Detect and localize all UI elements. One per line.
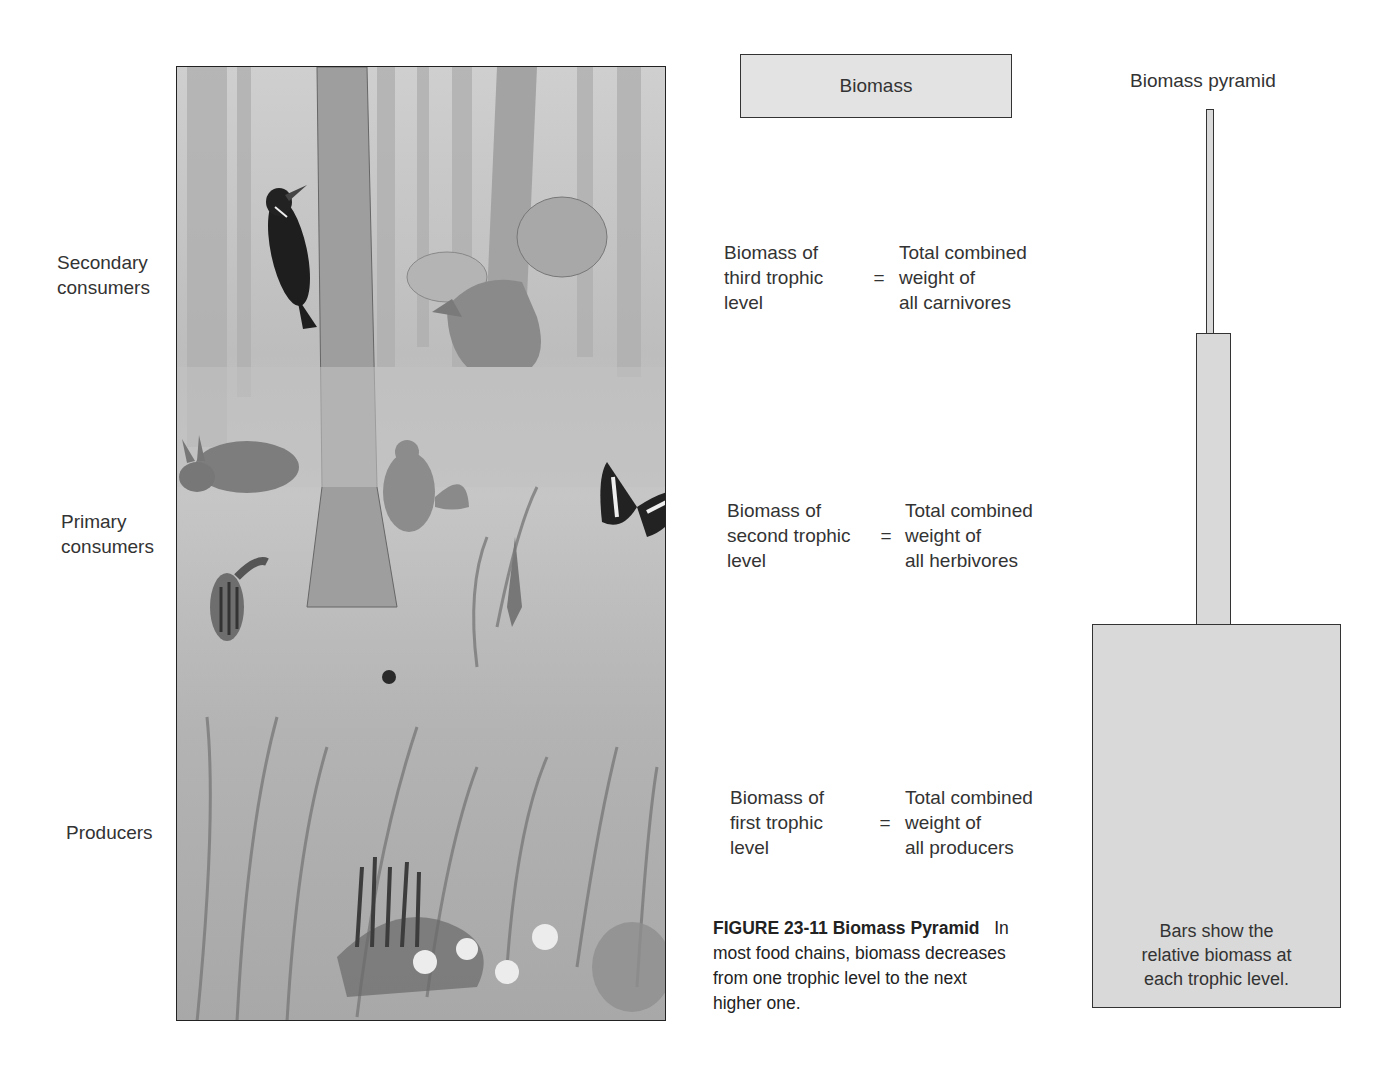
equation-rhs: Total combined weight of all carnivores xyxy=(899,240,1059,315)
equation-text: first trophic xyxy=(730,810,865,835)
pyramid-note: Bars show the relative biomass at each t… xyxy=(1093,919,1340,991)
bar-third-trophic-level xyxy=(1206,109,1214,334)
figure-number: FIGURE 23-11 xyxy=(713,918,828,938)
equation-text: Total combined xyxy=(905,498,1065,523)
bar-first-trophic-level: Bars show the relative biomass at each t… xyxy=(1092,624,1341,1008)
equals-sign: = xyxy=(859,265,899,290)
biomass-header-box: Biomass xyxy=(740,54,1012,118)
equation-text: all herbivores xyxy=(905,548,1065,573)
label-line: Secondary xyxy=(57,250,150,275)
label-primary-consumers: Primary consumers xyxy=(61,509,154,559)
equation-second-trophic-level: Biomass of second trophic level = Total … xyxy=(727,498,1065,573)
equation-text: Total combined xyxy=(899,240,1059,265)
caption-text: higher one. xyxy=(713,993,801,1013)
label-line: consumers xyxy=(57,275,150,300)
label-secondary-consumers: Secondary consumers xyxy=(57,250,150,300)
chipmunk-figure xyxy=(210,561,267,641)
equals-sign: = xyxy=(867,523,905,548)
note-line: each trophic level. xyxy=(1093,967,1340,991)
figure-title: Biomass Pyramid xyxy=(833,918,980,938)
equation-text: weight of xyxy=(899,265,1059,290)
equation-text: Biomass of xyxy=(724,240,859,265)
equation-text: Biomass of xyxy=(730,785,865,810)
pyramid-title: Biomass pyramid xyxy=(1130,70,1276,92)
equation-text: level xyxy=(730,835,865,860)
equation-text: all producers xyxy=(905,835,1065,860)
equation-text: all carnivores xyxy=(899,290,1059,315)
caption-text: from one trophic level to the next xyxy=(713,968,967,988)
equation-text: second trophic xyxy=(727,523,867,548)
woodpecker-figure xyxy=(260,185,318,329)
label-producers: Producers xyxy=(66,820,153,845)
equation-third-trophic-level: Biomass of third trophic level = Total c… xyxy=(724,240,1059,315)
equation-text: level xyxy=(727,548,867,573)
equation-text: weight of xyxy=(905,523,1065,548)
label-line: consumers xyxy=(61,534,154,559)
caption-text: most food chains, biomass decreases xyxy=(713,943,1006,963)
caption-text: In xyxy=(994,918,1009,938)
equation-text: Biomass of xyxy=(727,498,867,523)
figure-caption: FIGURE 23-11 Biomass Pyramid In most foo… xyxy=(713,916,1073,1016)
equation-text: weight of xyxy=(905,810,1065,835)
forest-scene-graphic xyxy=(177,67,666,1021)
bee-figure xyxy=(382,670,396,684)
note-line: relative biomass at xyxy=(1093,943,1340,967)
equation-first-trophic-level: Biomass of first trophic level = Total c… xyxy=(730,785,1065,860)
label-line: Producers xyxy=(66,820,153,845)
equation-rhs: Total combined weight of all producers xyxy=(905,785,1065,860)
forest-illustration xyxy=(176,66,666,1021)
equation-rhs: Total combined weight of all herbivores xyxy=(905,498,1065,573)
equation-lhs: Biomass of first trophic level xyxy=(730,785,865,860)
label-line: Primary xyxy=(61,509,154,534)
equation-text: third trophic xyxy=(724,265,859,290)
equation-text: level xyxy=(724,290,859,315)
equation-text: Total combined xyxy=(905,785,1065,810)
equation-lhs: Biomass of third trophic level xyxy=(724,240,859,315)
equation-lhs: Biomass of second trophic level xyxy=(727,498,867,573)
equals-sign: = xyxy=(865,810,905,835)
biomass-header-label: Biomass xyxy=(840,75,913,97)
note-line: Bars show the xyxy=(1093,919,1340,943)
bar-second-trophic-level xyxy=(1196,333,1231,626)
